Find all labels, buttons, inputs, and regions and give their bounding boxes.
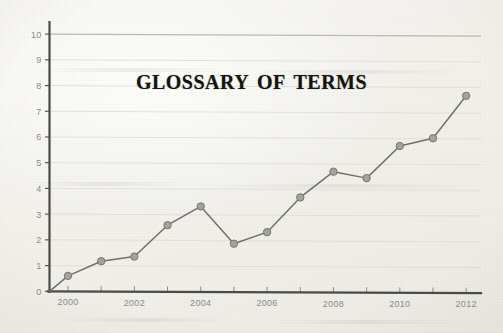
data-line (50, 96, 467, 291)
x-tick-label: 2012 (456, 299, 477, 309)
gridline (51, 34, 482, 36)
x-tick-label: 2000 (57, 297, 78, 307)
chart-title: Glossary of Terms (0, 62, 503, 96)
y-tick-label: 7 (36, 107, 41, 117)
data-point-marker (263, 228, 270, 235)
y-tick-label: 6 (36, 132, 41, 142)
data-point-marker (97, 258, 104, 265)
data-point-marker (131, 253, 138, 260)
gridline (51, 266, 482, 268)
y-tick-label: 1 (36, 261, 41, 271)
gridline (51, 137, 482, 139)
data-point-marker (429, 135, 436, 142)
data-point-marker (363, 174, 370, 181)
x-tick-label: 2004 (190, 298, 211, 308)
x-axis-tick-labels: 2000200220042006200820102012 (57, 297, 476, 309)
data-point-marker (197, 203, 204, 210)
data-point-marker (297, 194, 304, 201)
data-point-markers (64, 92, 470, 279)
x-tick-label: 2006 (256, 298, 277, 308)
x-axis-line (48, 291, 481, 293)
gridline (51, 163, 482, 165)
data-point-marker (330, 168, 337, 175)
y-tick-label: 10 (31, 30, 42, 40)
gridline (51, 214, 482, 216)
x-tick-label: 2008 (323, 299, 344, 309)
data-point-marker (64, 272, 71, 279)
y-tick-label: 4 (36, 184, 41, 194)
y-tick-label: 3 (36, 210, 41, 220)
gridline (51, 111, 482, 113)
data-point-marker (396, 142, 403, 149)
chart-canvas: 012345678910 200020022004200620082010201… (0, 0, 503, 333)
y-tick-label: 0 (36, 287, 41, 297)
scanned-page: 012345678910 200020022004200620082010201… (0, 0, 503, 333)
x-tick-label: 2010 (389, 299, 410, 309)
data-point-marker (230, 240, 237, 247)
x-tick-label: 2002 (124, 298, 145, 308)
gridline (51, 240, 482, 242)
y-tick-label: 5 (36, 158, 41, 168)
data-point-marker (164, 221, 171, 228)
line-chart: 012345678910 200020022004200620082010201… (0, 0, 503, 333)
y-tick-label: 2 (36, 235, 41, 245)
gridline (51, 188, 482, 190)
